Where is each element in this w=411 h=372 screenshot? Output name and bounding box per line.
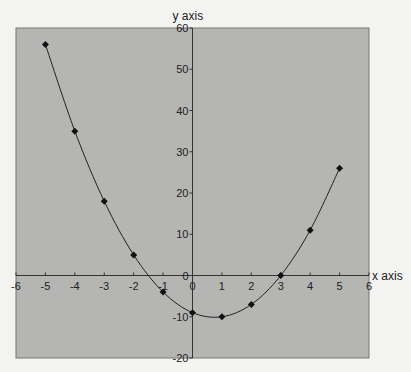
x-tick-label: -2 <box>129 280 139 292</box>
x-tick-label: -3 <box>99 280 109 292</box>
x-tick-label: 0 <box>189 280 195 292</box>
x-tick-label: 4 <box>307 280 313 292</box>
y-tick-label: 0 <box>182 270 188 282</box>
y-tick-label: 30 <box>176 146 188 158</box>
x-tick-label: -6 <box>11 280 21 292</box>
x-tick-label: 1 <box>219 280 225 292</box>
y-tick-label: 20 <box>176 187 188 199</box>
chart-svg: -6-5-4-3-2-10123456-20-100102030405060 x… <box>0 0 411 372</box>
x-tick-label: -4 <box>70 280 80 292</box>
y-tick-label: -20 <box>173 352 189 364</box>
y-tick-label: -10 <box>173 311 189 323</box>
y-tick-label: 40 <box>176 105 188 117</box>
x-tick-label: 2 <box>248 280 254 292</box>
x-tick-label: 3 <box>278 280 284 292</box>
y-tick-label: 50 <box>176 63 188 75</box>
y-tick-label: 60 <box>176 22 188 34</box>
x-tick-label: -5 <box>41 280 51 292</box>
y-axis-label: y axis <box>173 9 204 23</box>
x-tick-label: 5 <box>337 280 343 292</box>
x-axis-label: x axis <box>372 269 403 283</box>
y-tick-label: 10 <box>176 228 188 240</box>
